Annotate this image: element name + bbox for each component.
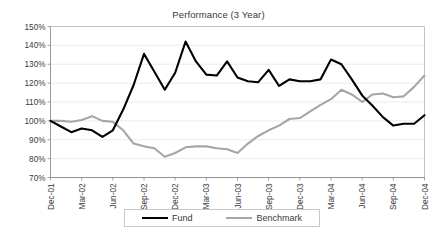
x-axis-tick-label: Sep-04 (389, 183, 398, 210)
y-axis-tick-label: 80% (29, 155, 45, 164)
x-axis-tick-label: Dec-03 (296, 183, 305, 210)
y-axis-tick-label: 120% (25, 79, 46, 88)
performance-chart: Performance (3 Year) 150%140%130%120%110… (0, 0, 437, 234)
series-line-fund (51, 42, 425, 137)
chart-plot-area: 150%140%130%120%110%100%90%80%70% Dec-01… (0, 0, 437, 234)
legend-swatch-benchmark-icon (226, 217, 252, 219)
x-axis-tick-label: Dec-04 (421, 183, 430, 210)
x-axis-tick-label: Mar-03 (202, 183, 211, 209)
y-axis-tick-label: 110% (25, 98, 45, 107)
y-axis-labels: 150%140%130%120%110%100%90%80%70% (25, 23, 51, 183)
x-axis-tick-label: Jun-04 (358, 183, 367, 208)
x-axis-tick-label: Jun-03 (234, 183, 243, 208)
x-axis-labels: Dec-01Mar-02Jun-02Sep-02Dec-02Mar-03Jun-… (47, 178, 430, 210)
x-axis-tick-label: Mar-02 (78, 183, 87, 209)
x-axis-tick-label: Dec-01 (47, 183, 56, 210)
chart-legend: Fund Benchmark (124, 209, 320, 227)
y-axis-tick-label: 90% (29, 136, 45, 145)
y-axis-tick-label: 140% (25, 41, 46, 50)
y-axis-tick-label: 130% (25, 60, 46, 69)
legend-swatch-fund-icon (142, 217, 168, 219)
y-axis-tick-label: 100% (25, 117, 46, 126)
y-axis-tick-label: 150% (25, 23, 46, 32)
y-axis-tick-label: 70% (29, 174, 45, 183)
x-axis-tick-label: Dec-02 (171, 183, 180, 210)
x-axis-tick-label: Sep-03 (265, 183, 274, 210)
legend-label-benchmark: Benchmark (256, 213, 302, 223)
legend-label-fund: Fund (172, 213, 193, 223)
x-axis-tick-label: Sep-02 (140, 183, 149, 210)
x-axis-tick-label: Mar-04 (327, 183, 336, 209)
legend-item-benchmark: Benchmark (226, 213, 302, 223)
x-axis-tick-label: Jun-02 (109, 183, 118, 208)
series-line-benchmark (51, 76, 425, 157)
legend-item-fund: Fund (142, 213, 193, 223)
